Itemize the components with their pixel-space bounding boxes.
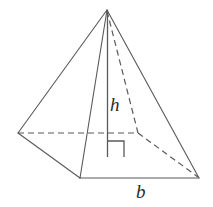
pyramid-figure: h b (0, 0, 213, 207)
edge-back-right-to-front-right (138, 133, 198, 177)
base-label: b (136, 182, 146, 201)
pyramid-drawing (0, 0, 213, 207)
solid-edges (18, 10, 199, 178)
edge-apex-to-front-left (80, 10, 107, 178)
right-angle-mark (108, 141, 125, 157)
edge-back-left-to-front-left (18, 133, 80, 178)
edge-apex-to-back-left (18, 10, 107, 133)
height-label: h (110, 95, 120, 114)
edge-apex-to-front-right (107, 10, 199, 178)
